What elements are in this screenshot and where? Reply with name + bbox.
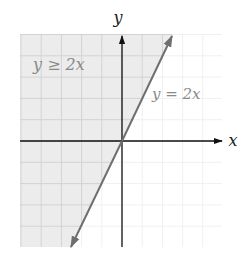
inequality-label: y ≥ 2x	[32, 55, 85, 74]
y-axis-label: y	[112, 8, 123, 27]
inequality-graph: y x y ≥ 2x y = 2x	[0, 0, 245, 262]
boundary-label: y = 2x	[151, 85, 201, 103]
x-axis-label: x	[228, 131, 237, 150]
